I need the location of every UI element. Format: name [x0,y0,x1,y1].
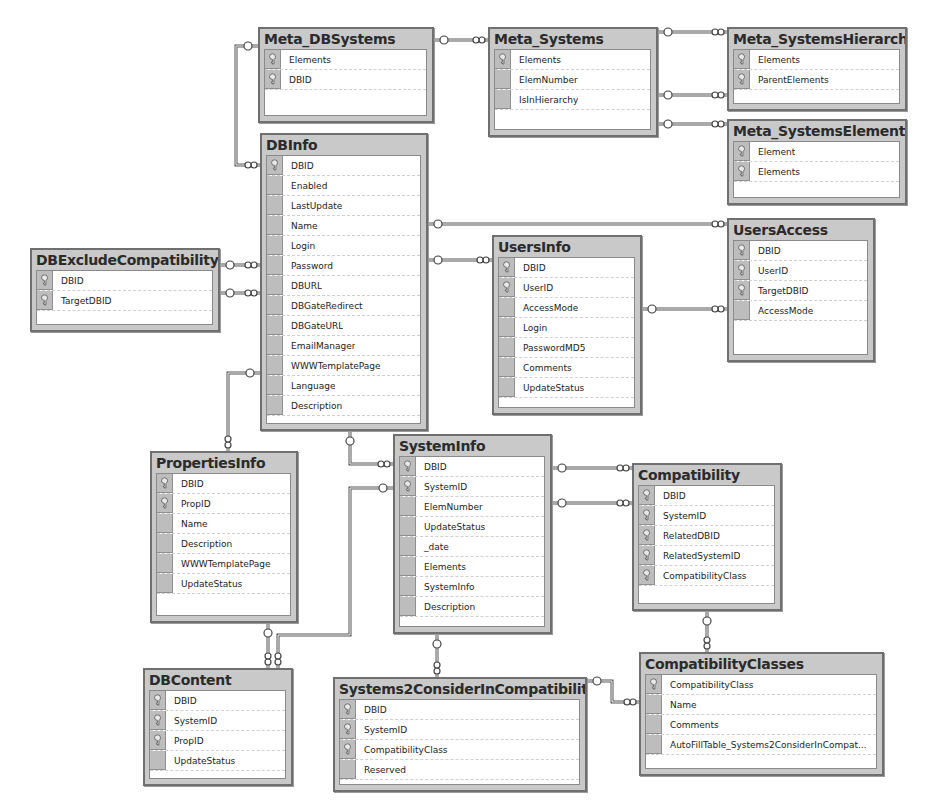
column-row-dbid[interactable]: DBID [265,70,426,90]
column-row-dbid[interactable]: DBID [734,241,867,261]
column-row-dbgateredirect[interactable]: DBGateRedirect [267,296,420,316]
row-selector[interactable] [495,90,511,109]
row-selector[interactable] [267,256,283,275]
row-selector[interactable] [267,196,283,215]
row-selector[interactable] [150,751,166,770]
table-systems2considerincompatibility[interactable]: Systems2ConsiderInCompatibility DBID Sys… [333,677,587,792]
row-selector[interactable] [267,156,283,175]
column-row-dbid[interactable]: DBID [340,700,579,720]
row-selector[interactable] [499,298,515,317]
row-selector[interactable] [734,261,750,280]
column-row-reserved[interactable]: Reserved [340,760,579,780]
relationship-dbinfo-propertiesinfo[interactable] [225,369,260,451]
relationship-dbexcludecompatibility-dbinfo[interactable] [220,261,260,269]
table-compatibilityclasses[interactable]: CompatibilityClasses CompatibilityClass … [639,652,884,776]
table-meta_dbsystems[interactable]: Meta_DBSystems Elements DBID [258,27,434,123]
row-selector[interactable] [267,336,283,355]
relationship-propertiesinfo-dbcontent[interactable] [264,623,272,668]
relationship-systems2considerincompatibility-compatibilityclasses[interactable] [587,677,639,705]
row-selector[interactable] [646,735,662,754]
column-row-systemid[interactable]: SystemID [150,711,285,731]
table-usersaccess[interactable]: UsersAccess DBID UserID TargetDBID Acces… [727,218,875,362]
column-row-description[interactable]: Description [267,396,420,416]
column-row-lastupdate[interactable]: LastUpdate [267,196,420,216]
column-row-elements[interactable]: Elements [265,50,426,70]
row-selector[interactable] [157,474,173,493]
column-row-accessmode[interactable]: AccessMode [499,298,634,318]
relationship-compatibility-compatibilityclasses[interactable] [703,611,711,652]
column-row-updatestatus[interactable]: UpdateStatus [157,574,290,594]
row-selector[interactable] [267,316,283,335]
row-selector[interactable] [734,70,750,89]
relationship-dbinfo-systeminfo[interactable] [346,431,393,467]
column-row-accessmode[interactable]: AccessMode [734,301,867,321]
column-row-targetdbid[interactable]: TargetDBID [37,291,212,311]
row-selector[interactable] [400,457,416,476]
row-selector[interactable] [267,216,283,235]
row-selector[interactable] [499,318,515,337]
column-row-elements[interactable]: Elements [734,50,899,70]
column-row-passwordmd5[interactable]: PasswordMD5 [499,338,634,358]
row-selector[interactable] [265,50,281,69]
column-row-parentelements[interactable]: ParentElements [734,70,899,90]
column-row-propid[interactable]: PropID [157,494,290,514]
row-selector[interactable] [267,396,283,415]
row-selector[interactable] [400,477,416,496]
column-row-comments[interactable]: Comments [646,715,876,735]
table-dbexcludecompatibility[interactable]: DBExcludeCompatibility DBID TargetDBID [30,248,220,332]
table-meta_systemselement[interactable]: Meta_SystemsElement Element Elements [727,119,907,205]
column-row-description[interactable]: Description [157,534,290,554]
column-row-language[interactable]: Language [267,376,420,396]
column-row-enabled[interactable]: Enabled [267,176,420,196]
row-selector[interactable] [734,142,750,161]
row-selector[interactable] [639,526,655,545]
row-selector[interactable] [734,50,750,69]
row-selector[interactable] [639,566,655,585]
row-selector[interactable] [340,700,356,719]
column-row--date[interactable]: _date [400,537,544,557]
column-row-compatibilityclass[interactable]: CompatibilityClass [639,566,774,586]
row-selector[interactable] [400,537,416,556]
row-selector[interactable] [157,574,173,593]
row-selector[interactable] [734,241,750,260]
table-dbinfo[interactable]: DBInfo DBID Enabled LastUpdate Name Logi… [260,133,428,431]
column-row-dbid[interactable]: DBID [37,271,212,291]
table-dbcontent[interactable]: DBContent DBID SystemID PropID UpdateSta… [143,668,293,786]
column-row-elemnumber[interactable]: ElemNumber [400,497,544,517]
row-selector[interactable] [37,271,53,290]
row-selector[interactable] [495,50,511,69]
row-selector[interactable] [267,376,283,395]
column-row-updatestatus[interactable]: UpdateStatus [400,517,544,537]
column-row-dbgateurl[interactable]: DBGateURL [267,316,420,336]
row-selector[interactable] [499,258,515,277]
table-compatibility[interactable]: Compatibility DBID SystemID RelatedDBID … [632,463,782,611]
row-selector[interactable] [267,236,283,255]
relationship-meta_dbsystems-meta_systems[interactable] [434,36,488,44]
column-row-userid[interactable]: UserID [499,278,634,298]
row-selector[interactable] [400,577,416,596]
column-row-name[interactable]: Name [157,514,290,534]
row-selector[interactable] [400,557,416,576]
row-selector[interactable] [157,494,173,513]
column-row-updatestatus[interactable]: UpdateStatus [499,378,634,398]
relationship-dbexcludecompatibility-dbinfo[interactable] [220,289,260,297]
column-row-dbid[interactable]: DBID [150,691,285,711]
row-selector[interactable] [267,176,283,195]
row-selector[interactable] [639,486,655,505]
row-selector[interactable] [734,281,750,300]
row-selector[interactable] [150,691,166,710]
relationship-systeminfo-systems2considerincompatibility[interactable] [433,634,441,677]
row-selector[interactable] [157,514,173,533]
column-row-targetdbid[interactable]: TargetDBID [734,281,867,301]
column-row-emailmanager[interactable]: EmailManager [267,336,420,356]
row-selector[interactable] [150,731,166,750]
column-row-elements[interactable]: Elements [495,50,650,70]
column-row-elements[interactable]: Elements [734,162,899,182]
column-row-login[interactable]: Login [499,318,634,338]
relationship-meta_systems-meta_systemselement[interactable] [658,120,727,128]
relationship-meta_systems-meta_systemshierarchy[interactable] [658,28,727,36]
column-row-autofilltable-systems2considerincompat-[interactable]: AutoFillTable_Systems2ConsiderInCompat..… [646,735,876,755]
row-selector[interactable] [499,278,515,297]
column-row-dbid[interactable]: DBID [639,486,774,506]
row-selector[interactable] [646,695,662,714]
